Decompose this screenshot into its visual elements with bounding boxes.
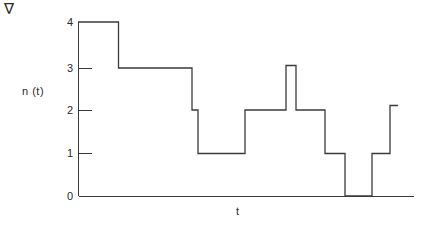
y-tick-marks (79, 69, 93, 154)
axes (79, 22, 415, 197)
step-function-curve (78, 22, 398, 196)
figure-canvas: ∇ n (t) t 4 3 2 1 0 (0, 0, 421, 231)
plot-area (0, 0, 421, 231)
